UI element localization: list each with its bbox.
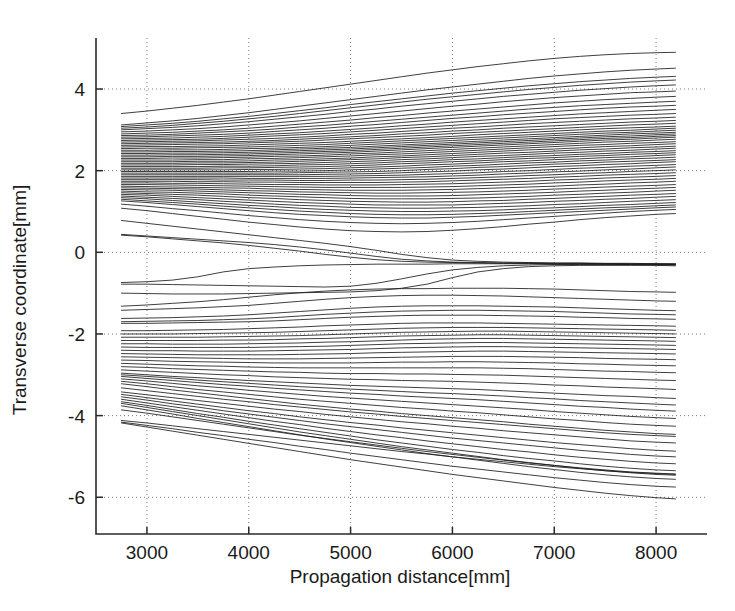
ray-line <box>121 288 675 306</box>
y-tick-label: -2 <box>68 324 85 345</box>
ray-line <box>121 360 675 366</box>
x-tick-label: 3000 <box>126 542 168 563</box>
ray-line <box>121 343 675 348</box>
x-tick-label: 5000 <box>329 542 371 563</box>
ray-line <box>121 392 675 443</box>
ray-line <box>121 351 675 355</box>
y-tick-label: 2 <box>74 161 85 182</box>
x-tick-label: 4000 <box>228 542 270 563</box>
figure-ray-trace-plot: 300040005000600070008000420-2-4-6 Propag… <box>0 0 735 611</box>
x-axis-title: Propagation distance[mm] <box>290 566 511 587</box>
y-tick-label: 0 <box>74 242 85 263</box>
y-tick-label: 4 <box>74 79 85 100</box>
ray-line <box>121 373 675 398</box>
ray-line <box>121 363 675 372</box>
y-tick-label: -4 <box>68 406 85 427</box>
ray-line <box>121 356 675 359</box>
ray-line <box>121 423 675 499</box>
ray-lines-group <box>121 52 675 499</box>
ray-line <box>121 338 675 344</box>
ray-line <box>121 187 675 196</box>
x-tick-label: 8000 <box>635 542 677 563</box>
y-axis-title: Transverse coordinate[mm] <box>9 185 30 416</box>
x-tick-label: 6000 <box>431 542 473 563</box>
ray-line <box>121 323 675 331</box>
ray-line <box>121 76 675 126</box>
ray-line <box>121 52 675 113</box>
ray-line <box>121 220 675 263</box>
plot-canvas: 300040005000600070008000420-2-4-6 Propag… <box>0 0 735 611</box>
ray-line <box>121 379 675 419</box>
x-tick-label: 7000 <box>533 542 575 563</box>
y-tick-label: -6 <box>68 487 85 508</box>
ray-line <box>121 234 675 264</box>
ray-line <box>121 327 675 334</box>
ray-line <box>121 68 675 125</box>
